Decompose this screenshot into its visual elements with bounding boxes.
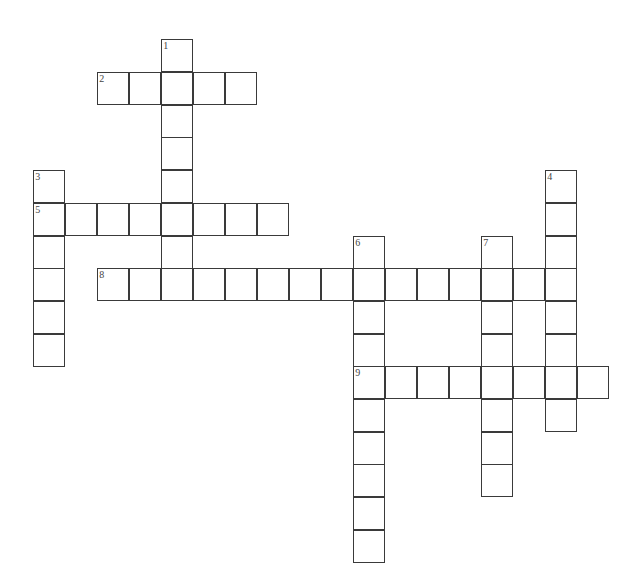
- crossword-cell[interactable]: [65, 203, 97, 236]
- crossword-cell[interactable]: [193, 72, 225, 105]
- crossword-cell[interactable]: [353, 464, 385, 497]
- crossword-cell[interactable]: [161, 137, 193, 170]
- crossword-cell[interactable]: [545, 399, 577, 432]
- crossword-cell[interactable]: [577, 366, 609, 399]
- crossword-cell[interactable]: [225, 72, 257, 105]
- clue-number: 7: [483, 237, 488, 248]
- clue-number: 1: [163, 40, 168, 51]
- crossword-cell[interactable]: 9: [353, 366, 385, 399]
- crossword-cell[interactable]: [545, 366, 577, 399]
- crossword-cell[interactable]: [417, 366, 449, 399]
- crossword-cell[interactable]: [353, 268, 385, 301]
- crossword-cell[interactable]: [545, 203, 577, 236]
- crossword-cell[interactable]: 8: [97, 268, 129, 301]
- crossword-cell[interactable]: [481, 268, 513, 301]
- crossword-cell[interactable]: [353, 301, 385, 334]
- crossword-cell[interactable]: [161, 236, 193, 269]
- crossword-cell[interactable]: [481, 464, 513, 497]
- clue-number: 9: [355, 367, 360, 378]
- crossword-cell[interactable]: [129, 72, 161, 105]
- crossword-cell[interactable]: [545, 301, 577, 334]
- crossword-cell[interactable]: [129, 268, 161, 301]
- crossword-cell[interactable]: [97, 203, 129, 236]
- crossword-cell[interactable]: [481, 334, 513, 367]
- crossword-cell[interactable]: [481, 301, 513, 334]
- crossword-cell[interactable]: [33, 334, 65, 367]
- crossword-cell[interactable]: [513, 366, 545, 399]
- crossword-cell[interactable]: [353, 497, 385, 530]
- crossword-cell[interactable]: [353, 399, 385, 432]
- crossword-cell[interactable]: [545, 334, 577, 367]
- crossword-cell[interactable]: 7: [481, 236, 513, 269]
- crossword-cell[interactable]: [353, 432, 385, 465]
- crossword-cell[interactable]: [33, 268, 65, 301]
- clue-number: 6: [355, 237, 360, 248]
- crossword-cell[interactable]: 1: [161, 39, 193, 72]
- crossword-cell[interactable]: [225, 203, 257, 236]
- crossword-cell[interactable]: [513, 268, 545, 301]
- crossword-cell[interactable]: [161, 72, 193, 105]
- crossword-cell[interactable]: [33, 236, 65, 269]
- clue-number: 3: [35, 171, 40, 182]
- crossword-cell[interactable]: [193, 203, 225, 236]
- crossword-cell[interactable]: 6: [353, 236, 385, 269]
- crossword-cell[interactable]: 5: [33, 203, 65, 236]
- crossword-cell[interactable]: [257, 268, 289, 301]
- crossword-cell[interactable]: [33, 301, 65, 334]
- crossword-cell[interactable]: [289, 268, 321, 301]
- crossword-cell[interactable]: [161, 203, 193, 236]
- crossword-grid: 123546978: [0, 0, 637, 587]
- crossword-cell[interactable]: [225, 268, 257, 301]
- crossword-cell[interactable]: [161, 170, 193, 203]
- crossword-cell[interactable]: [193, 268, 225, 301]
- crossword-cell[interactable]: [385, 366, 417, 399]
- crossword-cell[interactable]: 3: [33, 170, 65, 203]
- crossword-cell[interactable]: 4: [545, 170, 577, 203]
- crossword-cell[interactable]: [545, 268, 577, 301]
- crossword-cell[interactable]: [353, 530, 385, 563]
- crossword-cell[interactable]: [385, 268, 417, 301]
- crossword-cell[interactable]: [161, 268, 193, 301]
- crossword-cell[interactable]: [449, 268, 481, 301]
- crossword-cell[interactable]: [545, 236, 577, 269]
- crossword-cell[interactable]: [417, 268, 449, 301]
- crossword-cell[interactable]: [257, 203, 289, 236]
- clue-number: 4: [547, 171, 552, 182]
- crossword-cell[interactable]: [481, 366, 513, 399]
- crossword-cell[interactable]: 2: [97, 72, 129, 105]
- crossword-cell[interactable]: [481, 432, 513, 465]
- clue-number: 8: [99, 269, 104, 280]
- crossword-cell[interactable]: [481, 399, 513, 432]
- crossword-cell[interactable]: [353, 334, 385, 367]
- clue-number: 2: [99, 73, 104, 84]
- crossword-cell[interactable]: [161, 105, 193, 138]
- clue-number: 5: [35, 204, 40, 215]
- crossword-cell[interactable]: [449, 366, 481, 399]
- crossword-cell[interactable]: [129, 203, 161, 236]
- crossword-cell[interactable]: [321, 268, 353, 301]
